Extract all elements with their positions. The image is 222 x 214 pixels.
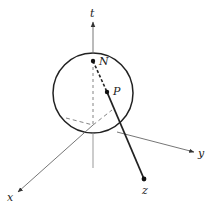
point-P: [105, 90, 109, 94]
label-P: P: [112, 85, 121, 98]
hidden-x-axis: [93, 110, 112, 125]
label-z: z: [141, 184, 148, 197]
label-x: x: [7, 191, 14, 204]
label-N: N: [98, 55, 109, 68]
hidden-y-axis: [66, 118, 93, 125]
point-N: [91, 59, 95, 63]
label-t: t: [90, 7, 95, 20]
label-y: y: [197, 147, 205, 160]
stereographic-diagram: t N P x y z: [0, 0, 222, 214]
point-z: [142, 177, 147, 182]
projection-line: [107, 92, 144, 179]
x-axis: [18, 125, 93, 192]
